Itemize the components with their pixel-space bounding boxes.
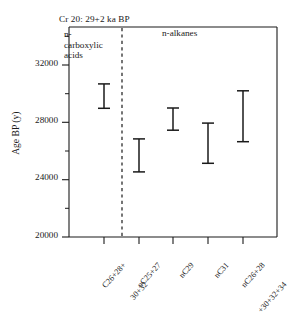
figure-container: Cr 20: 29+2 ka BP n- carboxylic acids n-…	[0, 0, 288, 319]
y-tick-label-32000: 32000	[16, 59, 58, 69]
y-axis-title: Age BP (y)	[11, 97, 21, 169]
x-axis-ticks	[104, 237, 243, 244]
error-bar-nc29	[167, 108, 179, 130]
y-tick-label-28000: 28000	[16, 116, 58, 126]
panel-label-n-alkanes: n-alkanes	[162, 29, 197, 39]
error-bar-c26-28-30-32	[98, 84, 110, 108]
error-bar-nc31	[202, 123, 214, 163]
panel-label-n-carboxylic-acids: n- carboxylic acids	[64, 29, 103, 61]
y-tick-label-20000: 20000	[16, 231, 58, 241]
error-bar-nc26-28-30-32-34	[237, 91, 249, 142]
y-tick-label-24000: 24000	[16, 173, 58, 183]
chart-title: Cr 20: 29+2 ka BP	[59, 15, 130, 25]
error-bar-nc25-27	[133, 139, 145, 172]
